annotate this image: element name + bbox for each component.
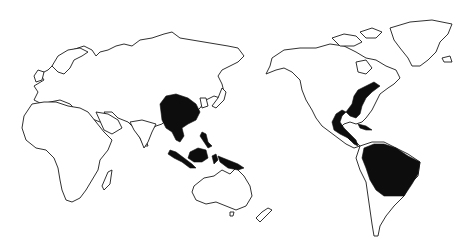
- australia-outline: [192, 168, 252, 210]
- world-map: [0, 0, 475, 243]
- highlight-philippines: [200, 132, 212, 148]
- highlight-new-guinea: [218, 156, 244, 170]
- india-outline: [130, 120, 156, 148]
- arctic-island-2-outline: [360, 28, 382, 38]
- tasmania-outline: [230, 212, 234, 216]
- new-zealand-outline: [256, 208, 272, 222]
- north-america-outline: [266, 44, 400, 148]
- highlight-sulawesi: [212, 154, 218, 164]
- arctic-islands-outline: [332, 34, 362, 46]
- british-isles-outline: [34, 70, 44, 82]
- iceland-outline: [442, 56, 452, 62]
- madagascar-outline: [102, 170, 112, 190]
- highlight-cuba: [358, 124, 372, 130]
- highlight-borneo: [188, 148, 208, 162]
